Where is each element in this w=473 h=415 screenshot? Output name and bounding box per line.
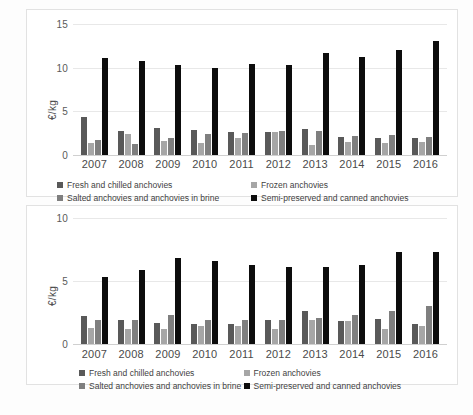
bar <box>265 320 271 344</box>
bar <box>352 315 358 344</box>
bar <box>235 138 241 155</box>
bar <box>426 306 432 344</box>
legend-swatch-icon <box>251 182 257 188</box>
x-tick-label: 2010 <box>186 158 223 170</box>
bar-group <box>370 24 407 155</box>
legend-item[interactable]: Frozen anchovies <box>251 180 445 190</box>
x-axis-top: 2007200820092010201120122013201420152016 <box>73 158 447 170</box>
bar-group <box>370 218 407 344</box>
x-tick-label: 2014 <box>334 158 371 170</box>
chart-panel-top: €/kg 051015 2007200820092010201120122013… <box>26 9 458 197</box>
bar <box>272 132 278 155</box>
bar <box>228 324 234 344</box>
bar <box>198 143 204 155</box>
bar <box>242 320 248 344</box>
bar-groups-bottom <box>73 218 447 344</box>
bar <box>102 277 108 344</box>
bar <box>316 318 322 344</box>
bar-group <box>297 24 334 155</box>
x-tick-label: 2009 <box>150 348 187 360</box>
chart-panel-bottom: €/kg 0510 200720082009201020112012201320… <box>26 205 458 385</box>
legend-item[interactable]: Frozen anchovies <box>232 368 445 378</box>
legend-item[interactable]: Fresh and chilled anchovies <box>57 368 232 378</box>
bar <box>389 135 395 155</box>
bar <box>118 131 124 155</box>
bar-group <box>407 218 444 344</box>
plot-area-top: 051015 <box>73 24 447 155</box>
y-tick-label-0: 0 <box>62 150 68 161</box>
legend-swatch-icon <box>57 195 63 201</box>
bar <box>242 133 248 155</box>
bar <box>279 131 285 155</box>
x-tick-label: 2013 <box>297 348 334 360</box>
legend-label: Salted anchovies and anchovies in brine <box>89 381 241 391</box>
bar <box>433 41 439 155</box>
bar-groups-top <box>73 24 447 155</box>
y-tick-label-10: 10 <box>56 62 68 73</box>
bar <box>139 270 145 344</box>
bar-group <box>223 218 260 344</box>
bar-group <box>260 218 297 344</box>
legend-label: Frozen anchovies <box>261 180 328 190</box>
bar <box>125 134 131 155</box>
bar <box>228 132 234 155</box>
bar <box>95 140 101 155</box>
bar <box>419 326 425 344</box>
legend-item[interactable]: Fresh and chilled anchovies <box>57 180 251 190</box>
legend-bottom: Fresh and chilled anchoviesFrozen anchov… <box>57 368 445 394</box>
plot-area-bottom: 0510 <box>73 218 447 344</box>
bar <box>345 142 351 155</box>
y-axis-label-bottom: €/kg <box>47 286 58 306</box>
bar <box>359 57 365 155</box>
bar-group <box>407 24 444 155</box>
legend-item[interactable]: Salted anchovies and anchovies in brine <box>57 193 251 203</box>
bar <box>161 329 167 344</box>
x-tick-label: 2015 <box>370 158 407 170</box>
x-tick-label: 2016 <box>407 158 444 170</box>
y-tick-label-5: 5 <box>62 106 68 117</box>
bar <box>81 117 87 155</box>
bar <box>396 252 402 344</box>
bar <box>302 311 308 344</box>
legend-item[interactable]: Salted anchovies and anchovies in brine <box>57 381 232 391</box>
bar <box>272 329 278 344</box>
legend-swatch-icon <box>251 195 257 201</box>
legend-top: Fresh and chilled anchoviesFrozen anchov… <box>57 180 445 206</box>
bar-group <box>113 24 150 155</box>
legend-label: Fresh and chilled anchovies <box>89 368 194 378</box>
bar <box>81 316 87 344</box>
bar <box>95 320 101 344</box>
bar <box>389 311 395 344</box>
x-axis-bottom: 2007200820092010201120122013201420152016 <box>73 348 447 360</box>
x-tick-label: 2007 <box>76 348 113 360</box>
bar <box>412 138 418 155</box>
bar-group <box>334 24 371 155</box>
bar <box>191 324 197 344</box>
x-tick-label: 2008 <box>113 348 150 360</box>
x-tick-label: 2008 <box>113 158 150 170</box>
gridline-0 <box>73 155 447 156</box>
y-axis-label-top: €/kg <box>47 100 58 120</box>
bar <box>212 68 218 155</box>
bar <box>161 141 167 155</box>
legend-label: Semi-preserved and canned anchovies <box>254 381 401 391</box>
bar <box>323 267 329 344</box>
bar <box>286 65 292 155</box>
x-tick-label: 2010 <box>186 348 223 360</box>
legend-item[interactable]: Semi-preserved and canned anchovies <box>232 381 445 391</box>
bar <box>139 61 145 155</box>
figure-container: €/kg 051015 2007200820092010201120122013… <box>0 0 473 415</box>
bar-group <box>150 218 187 344</box>
bar-group <box>186 218 223 344</box>
legend-label: Salted anchovies and anchovies in brine <box>67 193 219 203</box>
legend-swatch-icon <box>79 383 85 389</box>
legend-item[interactable]: Semi-preserved and canned anchovies <box>251 193 445 203</box>
x-tick-label: 2011 <box>223 348 260 360</box>
bar-group <box>334 218 371 344</box>
y-tick-label-0: 0 <box>62 339 68 350</box>
bar <box>132 144 138 155</box>
bar <box>125 329 131 344</box>
bar <box>359 265 365 344</box>
bar <box>345 321 351 344</box>
y-tick-label-5: 5 <box>62 276 68 287</box>
